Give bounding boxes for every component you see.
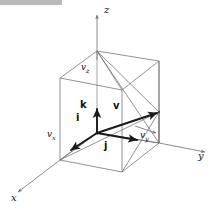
origin-point: [96, 132, 99, 135]
component-label-vx: vx: [47, 129, 56, 142]
vector-label-v: v: [113, 100, 120, 111]
x-axis: [18, 160, 60, 192]
box-wireframe: [60, 51, 159, 172]
component-label-vz-subscript: z: [86, 67, 89, 75]
vector-label-j: j: [104, 140, 107, 151]
box-diagonal-origin-to-tip-upper: [97, 51, 159, 112]
vector-decomposition-figure: [0, 0, 218, 216]
vector-tip-point: [158, 111, 160, 113]
box-top-edge-right-far: [122, 61, 159, 90]
axis-label-x: x: [11, 192, 17, 203]
coordinate-axes: [18, 15, 205, 192]
axis-label-z: z: [104, 4, 109, 15]
component-label-vx-subscript: x: [52, 134, 56, 142]
box-top-edge-origin-right: [97, 51, 159, 61]
box-base-edge-right-far: [122, 143, 159, 172]
box-top-edge-origin-left: [60, 51, 97, 78]
box-base-edge-left-far: [60, 160, 122, 172]
vector-label-k: k: [80, 99, 87, 110]
component-label-vz: vz: [81, 62, 90, 75]
vector-label-i: i: [76, 112, 79, 123]
box-top-edge-left-far: [60, 78, 122, 90]
axis-label-y: y: [198, 150, 204, 161]
component-label-vy: vy: [140, 130, 149, 143]
vector-i: [71, 133, 97, 150]
component-label-vy-subscript: y: [145, 135, 149, 143]
